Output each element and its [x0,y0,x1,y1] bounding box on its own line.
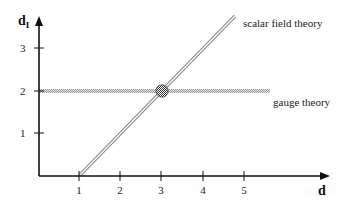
y-axis-arrow-icon [35,16,43,26]
x-tick-label: 5 [241,184,247,196]
x-tick-label: 1 [76,184,82,196]
x-tick-label: 4 [200,184,206,196]
diagram-canvas: dI 1 2 3 1 2 3 4 5 d scalar field theory… [0,0,344,206]
x-tick-label: 2 [117,184,123,196]
intersection-point-icon [156,85,168,97]
scalar-field-theory-label: scalar field theory [243,17,323,29]
y-axis [34,16,44,176]
gauge-theory-line [40,89,270,93]
x-axis-label: d [318,183,326,198]
y-axis-label: dI [18,13,30,30]
y-tick-label: 2 [20,85,26,97]
y-tick-label: 3 [20,42,26,54]
x-tick-label: 3 [158,184,164,196]
gauge-theory-label: gauge theory [273,96,331,108]
y-tick-label: 1 [20,127,26,139]
x-axis-arrow-icon [320,172,330,180]
